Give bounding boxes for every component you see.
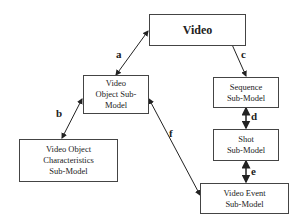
node-video-object-characteristics-sub-model: Video Object Characteristics Sub-Model: [19, 139, 118, 182]
node-shot-sub-model: Shot Sub-Model: [213, 129, 279, 161]
node-video-event-label: Video Event Sub-Model: [223, 188, 265, 210]
node-video: Video: [149, 14, 246, 46]
node-sequence-label: Sequence Sub-Model: [227, 82, 265, 104]
node-shot-label: Shot Sub-Model: [227, 134, 265, 156]
edge-label-c: c: [241, 48, 246, 60]
node-video-label: Video: [183, 25, 213, 36]
node-video-object-characteristics-label: Video Object Characteristics Sub-Model: [43, 144, 94, 177]
node-sequence-sub-model: Sequence Sub-Model: [213, 77, 279, 108]
node-video-object-sub-model: Video Object Sub- Model: [83, 75, 149, 114]
edge-label-f: f: [169, 127, 173, 139]
edge-label-a: a: [116, 48, 122, 60]
node-video-event-sub-model: Video Event Sub-Model: [200, 183, 289, 214]
edge-f: [149, 99, 200, 195]
edge-b: [62, 99, 82, 138]
node-video-object-label: Video Object Sub- Model: [96, 78, 137, 111]
edge-label-e: e: [251, 165, 256, 177]
edge-label-d: d: [251, 110, 257, 122]
edge-label-b: b: [56, 107, 62, 119]
